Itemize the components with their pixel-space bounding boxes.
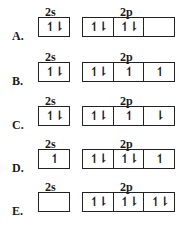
electron-arrows: ↿⇂ <box>114 150 145 168</box>
option-a: 2s 2p A. ↿⇂ ↿⇂ ↿⇂ <box>0 6 187 48</box>
option-letter: B. <box>12 75 23 87</box>
option-letter: D. <box>12 162 24 174</box>
option-letter: E. <box>12 205 23 217</box>
option-letter: C. <box>12 119 24 131</box>
electron-arrows: ↿⇂ <box>144 193 174 211</box>
electron-arrows: ↿ <box>144 150 174 168</box>
electron-arrows <box>144 18 174 36</box>
orbital-2s: ↿⇂ <box>38 62 70 82</box>
electron-arrows: ↿⇂ <box>39 63 69 81</box>
orbital-2p: ↿⇂ ↿ ⇂ <box>82 106 175 126</box>
electron-arrows: ↿⇂ <box>83 63 114 81</box>
electron-arrows: ↿ <box>144 63 174 81</box>
electron-arrows <box>39 193 69 211</box>
electron-arrows: ↿ <box>114 63 145 81</box>
orbital-2s <box>38 192 70 212</box>
electron-arrows: ⇂ <box>144 107 174 125</box>
option-letter: A. <box>12 30 24 42</box>
option-e: 2s 2p E. ↿⇂ ↿⇂ ↿⇂ <box>0 181 187 223</box>
electron-arrows: ↿⇂ <box>83 107 114 125</box>
orbital-2s: ↿⇂ <box>38 17 70 37</box>
electron-arrows: ↿⇂ <box>114 18 145 36</box>
orbital-2s: ↿ <box>38 149 70 169</box>
option-c: 2s 2p C. ↿⇂ ↿⇂ ↿ ⇂ <box>0 95 187 137</box>
electron-arrows: ↿⇂ <box>83 193 114 211</box>
electron-arrows: ↿⇂ <box>83 150 114 168</box>
option-d: 2s 2p D. ↿ ↿⇂ ↿⇂ ↿ <box>0 138 187 180</box>
orbital-2s: ↿⇂ <box>38 106 70 126</box>
orbital-2p: ↿⇂ ↿⇂ <box>82 17 175 37</box>
electron-arrows: ↿⇂ <box>83 18 114 36</box>
electron-arrows: ↿⇂ <box>39 107 69 125</box>
electron-arrows: ↿⇂ <box>114 193 145 211</box>
electron-arrows: ↿⇂ <box>39 18 69 36</box>
orbital-2p: ↿⇂ ↿⇂ ↿⇂ <box>82 192 175 212</box>
electron-arrows: ↿ <box>114 107 145 125</box>
option-b: 2s 2p B. ↿⇂ ↿⇂ ↿ ↿ <box>0 51 187 93</box>
electron-arrows: ↿ <box>39 150 69 168</box>
orbital-2p: ↿⇂ ↿⇂ ↿ <box>82 149 175 169</box>
orbital-2p: ↿⇂ ↿ ↿ <box>82 62 175 82</box>
